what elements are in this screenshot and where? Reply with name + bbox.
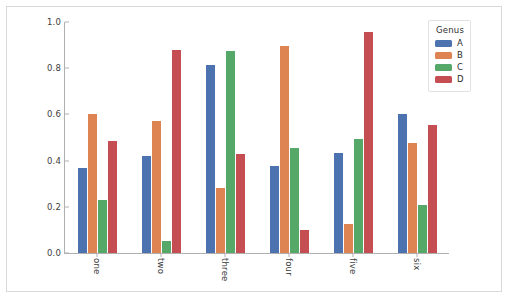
bar-six-A[interactable] [398, 114, 407, 253]
bar-two-A[interactable] [142, 156, 151, 253]
bar-three-C[interactable] [226, 51, 235, 253]
x-axis-tick-label: three [220, 258, 230, 282]
x-axis-tick-label: five [348, 258, 358, 274]
legend-label-A: A [457, 38, 463, 48]
bar-six-D[interactable] [428, 125, 437, 253]
bar-four-B[interactable] [280, 46, 289, 253]
y-axis-tick-label: 1.0 [47, 17, 65, 27]
y-axis-tick-label: 0.0 [47, 248, 65, 258]
bar-group-two: two [129, 22, 193, 253]
bar-one-C[interactable] [98, 200, 107, 253]
legend-swatch-A [435, 40, 452, 47]
y-axis-tick: 0.8 [47, 63, 65, 73]
bar-group-bars [321, 22, 385, 253]
y-axis-tick-label: 0.2 [47, 202, 65, 212]
bar-one-D[interactable] [108, 141, 117, 253]
y-axis-tick: 0.4 [47, 156, 65, 166]
bar-four-C[interactable] [290, 148, 299, 253]
x-axis-tick-label: two [156, 258, 166, 274]
bar-two-D[interactable] [172, 50, 181, 253]
bar-five-D[interactable] [364, 32, 373, 253]
bar-group-bars [257, 22, 321, 253]
legend-swatch-B [435, 52, 452, 59]
x-axis-tick-mark [161, 253, 162, 257]
bar-group-bars [193, 22, 257, 253]
x-axis-tick-mark [417, 253, 418, 257]
y-axis-tick: 1.0 [47, 17, 65, 27]
x-axis-tick-mark [353, 253, 354, 257]
bar-three-B[interactable] [216, 188, 225, 253]
bar-group-bars [65, 22, 129, 253]
legend-label-D: D [457, 74, 464, 84]
bar-group-three: three [193, 22, 257, 253]
bar-group-bars [129, 22, 193, 253]
x-axis-tick-mark [289, 253, 290, 257]
bar-two-B[interactable] [152, 121, 161, 253]
legend-item-B[interactable]: B [435, 50, 464, 60]
y-axis-tick: 0.0 [47, 248, 65, 258]
bar-five-B[interactable] [344, 224, 353, 253]
bar-group-one: one [65, 22, 129, 253]
legend-label-C: C [457, 62, 463, 72]
x-axis-tick-mark [97, 253, 98, 257]
x-axis-tick-mark [225, 253, 226, 257]
y-axis-tick: 0.6 [47, 109, 65, 119]
y-axis-tick-label: 0.6 [47, 109, 65, 119]
x-axis-tick-label: six [412, 258, 422, 270]
legend-title: Genus [435, 25, 464, 35]
x-axis-tick-label: one [92, 258, 102, 274]
bar-two-C[interactable] [162, 241, 171, 253]
legend-swatch-C [435, 64, 452, 71]
plot-area: onetwothreefourfivesix [65, 22, 449, 253]
bar-one-A[interactable] [78, 168, 87, 253]
legend-item-D[interactable]: D [435, 74, 464, 84]
bar-six-B[interactable] [408, 143, 417, 253]
bar-three-D[interactable] [236, 154, 245, 253]
bar-five-A[interactable] [334, 153, 343, 253]
bar-four-A[interactable] [270, 166, 279, 253]
bar-group-five: five [321, 22, 385, 253]
legend-item-C[interactable]: C [435, 62, 464, 72]
plot-axes: 0.00.20.40.60.81.0 onetwothreefourfivesi… [64, 22, 449, 254]
legend-item-A[interactable]: A [435, 38, 464, 48]
bar-five-C[interactable] [354, 139, 363, 253]
bar-four-D[interactable] [300, 230, 309, 253]
bar-one-B[interactable] [88, 114, 97, 253]
y-axis-tick-label: 0.8 [47, 63, 65, 73]
bar-three-A[interactable] [206, 65, 215, 253]
bar-chart-figure: 0.00.20.40.60.81.0 onetwothreefourfivesi… [0, 0, 508, 298]
legend-label-B: B [457, 50, 463, 60]
bar-group-four: four [257, 22, 321, 253]
legend-swatch-D [435, 76, 452, 83]
legend: Genus ABCD [428, 20, 471, 92]
legend-items: ABCD [435, 38, 464, 84]
x-axis-tick-label: four [284, 258, 294, 276]
y-axis-tick: 0.2 [47, 202, 65, 212]
y-axis-tick-label: 0.4 [47, 156, 65, 166]
bar-six-C[interactable] [418, 205, 427, 254]
